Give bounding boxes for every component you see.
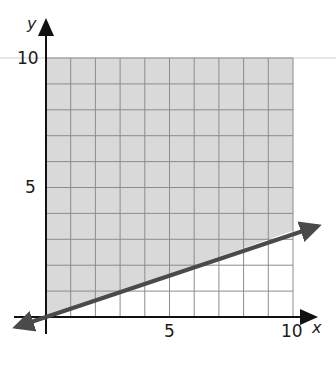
x-tick-5: 5 [164, 321, 175, 341]
y-axis-label: y [26, 14, 37, 33]
x-tick-10: 10 [281, 321, 303, 341]
x-axis-label: x [311, 318, 322, 337]
y-tick-10: 10 [17, 48, 39, 68]
y-tick-5: 5 [25, 177, 36, 197]
inequality-graph: 10 5 5 10 y x [0, 0, 336, 368]
boundary-line-tail [16, 317, 46, 327]
